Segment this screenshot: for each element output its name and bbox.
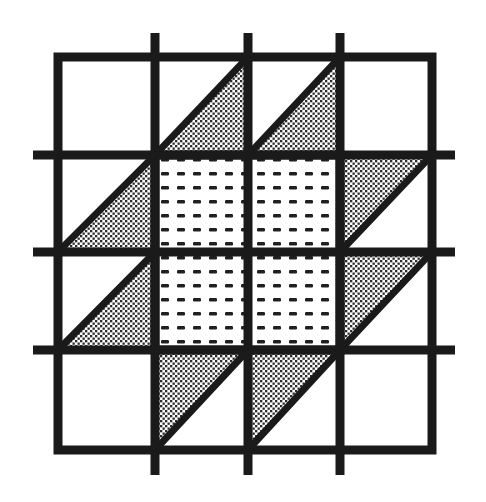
dash-cell-r3c3 [248,252,340,350]
quilt-block-diagram [0,0,486,502]
dash-cell-r3c2 [155,252,248,350]
dash-cell-r2c2 [155,155,248,252]
quilt-block-figure [0,0,486,502]
dash-cell-r2c3 [248,155,340,252]
